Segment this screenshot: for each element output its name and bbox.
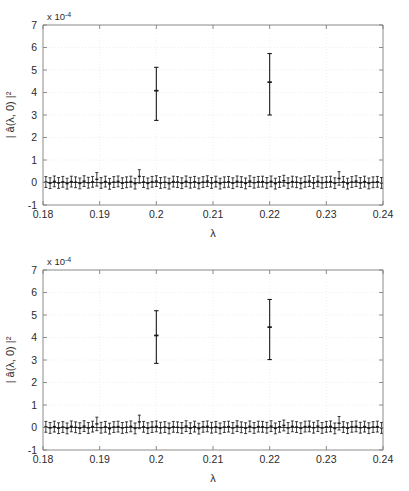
xtick-label: 0.23 (316, 208, 337, 220)
xtick-label: 0.18 (33, 453, 54, 465)
y-exponent-label: x 10-4 (47, 11, 71, 23)
ytick-label: 2 (31, 376, 37, 388)
xtick-label: 0.22 (259, 208, 280, 220)
xtick-label: 0.19 (89, 208, 110, 220)
xtick-label: 0.24 (373, 453, 394, 465)
plot-canvas-bottom: -1012345670.180.190.20.210.220.230.24x 1… (0, 245, 409, 490)
ytick-label: 7 (31, 19, 37, 31)
ytick-label: 7 (31, 264, 37, 276)
x-axis-label: λ (210, 227, 216, 239)
tick-group: -1012345670.180.190.20.210.220.230.24 (28, 264, 394, 465)
xtick-label: 0.19 (89, 453, 110, 465)
data-series-group (44, 299, 383, 434)
ytick-label: 5 (31, 64, 37, 76)
tick-group: -1012345670.180.190.20.210.220.230.24 (28, 19, 394, 220)
y-axis-label: | â(λ, 0) |² (4, 336, 16, 383)
chart-panel-bottom: -1012345670.180.190.20.210.220.230.24x 1… (0, 245, 409, 490)
ytick-label: 2 (31, 131, 37, 143)
y-exponent-label: x 10-4 (47, 256, 71, 268)
xtick-label: 0.21 (203, 453, 224, 465)
xtick-label: 0.22 (259, 453, 280, 465)
x-axis-label: λ (210, 472, 216, 484)
ytick-label: 3 (31, 354, 37, 366)
ytick-label: 6 (31, 41, 37, 53)
ytick-label: 1 (31, 154, 37, 166)
data-series-group (44, 54, 383, 190)
ytick-label: 6 (31, 286, 37, 298)
plot-canvas-top: -1012345670.180.190.20.210.220.230.24x 1… (0, 0, 409, 245)
ytick-label: 0 (31, 176, 37, 188)
ytick-label: 4 (31, 331, 37, 343)
xtick-label: 0.23 (316, 453, 337, 465)
xtick-label: 0.24 (373, 208, 394, 220)
ytick-label: 5 (31, 309, 37, 321)
gridlines (43, 270, 383, 450)
xtick-label: 0.2 (149, 453, 164, 465)
xtick-label: 0.18 (33, 208, 54, 220)
chart-panel-top: -1012345670.180.190.20.210.220.230.24x 1… (0, 0, 409, 245)
y-exponent-superscript: -4 (65, 11, 71, 18)
ytick-label: 3 (31, 109, 37, 121)
xtick-label: 0.21 (203, 208, 224, 220)
ytick-label: 4 (31, 86, 37, 98)
y-axis-label: | â(λ, 0) |² (4, 91, 16, 138)
xtick-label: 0.2 (149, 208, 164, 220)
y-exponent-superscript: -4 (65, 256, 71, 263)
ytick-label: 0 (31, 421, 37, 433)
gridlines (43, 25, 383, 205)
ytick-label: 1 (31, 399, 37, 411)
